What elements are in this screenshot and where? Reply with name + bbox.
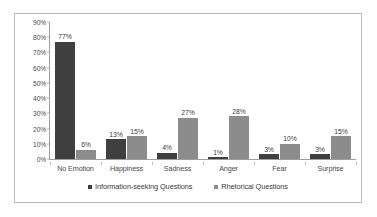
legend-label: Rhetorical Questions <box>221 182 288 191</box>
bar-rhetorical[interactable] <box>280 144 300 159</box>
y-axis-tick-label: 10% <box>33 140 46 147</box>
bar-group: 3%15% <box>305 22 356 159</box>
bar-group-inner: 3%15% <box>305 22 356 159</box>
bar-value-label: 28% <box>225 108 253 115</box>
x-axis-category-label: Sadness <box>152 164 203 173</box>
y-axis-tick-label: 30% <box>33 110 46 117</box>
bar-rhetorical[interactable] <box>127 136 147 159</box>
y-axis-tick-label: 60% <box>33 64 46 71</box>
bar-group-inner: 77%6% <box>50 22 101 159</box>
x-axis-category-label: Fear <box>254 164 305 173</box>
bar-rhetorical[interactable] <box>178 118 198 159</box>
x-axis-category-label: Anger <box>203 164 254 173</box>
x-axis-line <box>49 159 356 160</box>
bar-rhetorical[interactable] <box>229 116 249 159</box>
bar-value-label: 15% <box>123 128 151 135</box>
x-axis-labels: No EmotionHappinessSadnessAngerFearSurpr… <box>50 162 356 176</box>
bar-value-label: 6% <box>72 141 100 148</box>
legend-swatch-icon <box>214 185 218 189</box>
y-axis-tick-label: 80% <box>33 34 46 41</box>
bar-group: 13%15% <box>101 22 152 159</box>
plot-area: 77%6%13%15%4%27%1%28%3%10%3%15% <box>50 22 356 159</box>
bar-value-label: 10% <box>276 135 304 142</box>
bar-information-seeking[interactable] <box>259 154 279 159</box>
x-axis-category-label: No Emotion <box>50 164 101 173</box>
bar-group-inner: 13%15% <box>101 22 152 159</box>
x-axis-category-label: Happiness <box>101 164 152 173</box>
y-axis-tick-label: 0% <box>37 156 46 163</box>
x-axis-tick-mark <box>356 162 357 165</box>
legend-label: Information-seeking Questions <box>95 182 192 191</box>
bar-value-label: 27% <box>174 109 202 116</box>
bar-value-label: 1% <box>204 149 232 156</box>
y-axis-tick-label: 70% <box>33 49 46 56</box>
legend-item[interactable]: Rhetorical Questions <box>214 182 288 191</box>
bar-group: 77%6% <box>50 22 101 159</box>
chart-legend: Information-seeking QuestionsRhetorical … <box>15 182 361 191</box>
legend-item[interactable]: Information-seeking Questions <box>88 182 192 191</box>
bar-value-label: 77% <box>51 33 79 40</box>
y-axis-tick-label: 90% <box>33 19 46 26</box>
x-axis-category-label: Surprise <box>305 164 356 173</box>
bar-rhetorical[interactable] <box>76 150 96 159</box>
chart-frame: 0%10%20%30%40%50%60%70%80%90% 77%6%13%15… <box>14 13 362 203</box>
bar-value-label: 3% <box>306 146 334 153</box>
bar-group: 3%10% <box>254 22 305 159</box>
y-axis-tick-label: 50% <box>33 79 46 86</box>
y-axis-tick-label: 40% <box>33 95 46 102</box>
bar-rhetorical[interactable] <box>331 136 351 159</box>
bar-information-seeking[interactable] <box>208 157 228 159</box>
bar-value-label: 15% <box>327 128 355 135</box>
bar-value-label: 3% <box>255 146 283 153</box>
bar-group-inner: 1%28% <box>203 22 254 159</box>
chart-plot-wrapper: 0%10%20%30%40%50%60%70%80%90% 77%6%13%15… <box>15 14 361 202</box>
bar-information-seeking[interactable] <box>157 153 177 159</box>
bar-group-inner: 4%27% <box>152 22 203 159</box>
legend-swatch-icon <box>88 185 92 189</box>
bar-group-inner: 3%10% <box>254 22 305 159</box>
x-axis-tick-mark <box>50 162 51 165</box>
y-axis: 0%10%20%30%40%50%60%70%80%90% <box>19 22 49 159</box>
bar-group: 1%28% <box>203 22 254 159</box>
bar-information-seeking[interactable] <box>310 154 330 159</box>
bar-information-seeking[interactable] <box>106 139 126 159</box>
bar-value-label: 4% <box>153 144 181 151</box>
y-axis-tick-label: 20% <box>33 125 46 132</box>
bar-group: 4%27% <box>152 22 203 159</box>
